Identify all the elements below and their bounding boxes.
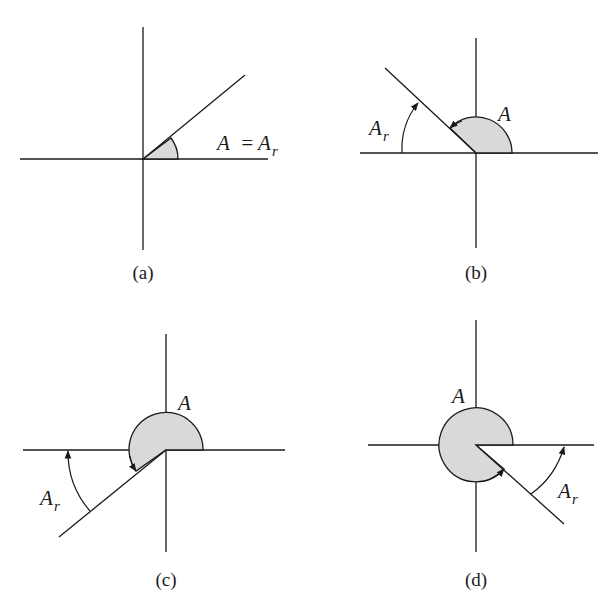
angle-sector — [143, 138, 178, 159]
reference-angle-figure: A = A r (a) A A r (b) A A r (c) — [0, 0, 614, 610]
terminal-ray — [59, 450, 166, 537]
ref-angle-subscript: r — [572, 491, 578, 507]
angle-label: A — [450, 384, 465, 408]
caption-d: (d) — [465, 569, 487, 591]
panel-b: A A r (b) — [360, 38, 598, 284]
ref-angle-arc — [402, 103, 418, 153]
equals-sign: = — [240, 131, 254, 155]
ref-angle-label: A — [38, 486, 53, 510]
panel-a: A = A r (a) — [20, 27, 278, 284]
ref-angle-label: A — [367, 116, 382, 140]
caption-a: (a) — [132, 262, 153, 284]
terminal-ray — [385, 68, 476, 153]
angle-label: A — [176, 391, 191, 415]
ref-angle-arc — [68, 451, 90, 511]
ref-angle-subscript: r — [383, 128, 389, 144]
ref-angle-label: A — [256, 131, 271, 155]
panel-d: A A r (d) — [368, 320, 594, 591]
ref-angle-subscript: r — [54, 498, 60, 514]
panel-c: A A r (c) — [23, 334, 285, 591]
angle-label: A — [496, 102, 511, 126]
ref-angle-label: A — [556, 479, 571, 503]
terminal-ray — [476, 445, 564, 524]
angle-label: A — [215, 131, 230, 155]
caption-c: (c) — [155, 569, 176, 591]
ref-angle-subscript: r — [272, 143, 278, 159]
caption-b: (b) — [465, 262, 487, 284]
